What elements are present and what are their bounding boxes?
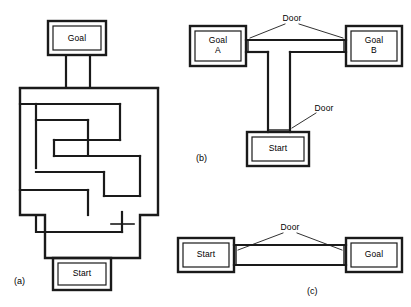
goal-b-label: Goal B bbox=[346, 35, 402, 55]
goal-label-c: Goal bbox=[346, 249, 402, 259]
start-label-b: Start bbox=[247, 143, 309, 153]
panel-id-b: (b) bbox=[196, 153, 207, 163]
door-label-c: Door bbox=[269, 222, 311, 232]
goal-a-label: Goal A bbox=[190, 35, 246, 55]
panel-a-maze bbox=[20, 21, 158, 290]
start-label-a: Start bbox=[53, 268, 111, 278]
panel-id-c: (c) bbox=[307, 286, 318, 296]
start-label-c: Start bbox=[178, 249, 234, 259]
maze-wall-a15 bbox=[36, 215, 122, 232]
door-leader-c-right bbox=[297, 233, 342, 250]
door-leader-b-right bbox=[299, 24, 343, 38]
maze-goal-neck-a bbox=[66, 55, 90, 88]
goal-label-a: Goal bbox=[48, 33, 106, 43]
figure-canvas: Goal Start (a) Goal A Goal B Start Door … bbox=[0, 0, 411, 307]
door-leader-c-left bbox=[238, 233, 283, 250]
door-leader-b-stem bbox=[292, 113, 316, 128]
panel-id-a: (a) bbox=[14, 276, 25, 286]
door-leader-b-left bbox=[250, 24, 285, 38]
door-top-label-b: Door bbox=[271, 13, 313, 23]
door-mid-label-b: Door bbox=[303, 103, 345, 113]
